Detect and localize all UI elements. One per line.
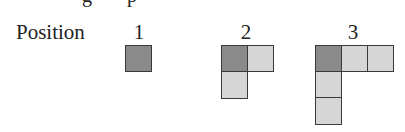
position-label: Position [16,22,85,43]
light-square [341,45,368,72]
light-square [367,45,394,72]
cropped-text-fragment: p [127,0,137,7]
position-number: 3 [348,22,359,43]
light-square [315,97,342,125]
dark-square [221,45,248,72]
light-square [315,71,342,98]
light-square [247,45,274,72]
position-number: 1 [134,22,145,43]
dark-square [315,45,342,72]
dark-square [125,45,152,72]
position-number: 2 [241,22,252,43]
light-square [221,71,248,99]
cropped-text-fragment: g [82,0,92,7]
